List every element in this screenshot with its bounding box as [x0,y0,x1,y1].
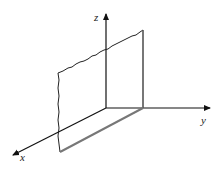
y-axis-label: y [200,114,206,126]
diagram-svg: z y x [0,0,222,172]
z-axis-label: z [93,11,99,23]
plane-left-edge [58,73,60,152]
plane-base-edge [60,108,143,152]
plane-top-edge [58,30,143,73]
coordinate-diagram: z y x [0,0,222,172]
x-axis-label: x [19,151,25,163]
